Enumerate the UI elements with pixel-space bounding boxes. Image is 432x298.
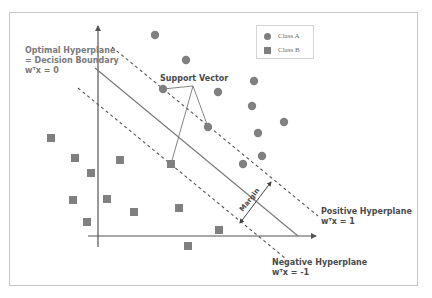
class-b-point (71, 154, 79, 162)
class-b-point (130, 208, 138, 216)
class-b-point (215, 226, 223, 234)
positive-hyperplane-label: Positive Hyperplane wᵀx = 1 (321, 207, 412, 227)
class-a-point (204, 123, 212, 131)
optimal-hyperplane-title: Optimal Hyperplane (25, 46, 119, 56)
class-b-point (116, 156, 124, 164)
class-a-point (250, 77, 258, 85)
class-a-point (214, 88, 222, 96)
class-b-point (184, 242, 192, 250)
negative-hyperplane-title: Negative Hyperplane (272, 258, 367, 268)
legend-item-class-b: Class B (264, 45, 300, 55)
svm-diagram (0, 0, 432, 298)
class-b-point (175, 204, 183, 212)
negative-hyperplane-equation: wᵀx = -1 (272, 268, 367, 278)
positive-hyperplane-equation: wᵀx = 1 (321, 217, 412, 227)
class-b-point (83, 218, 91, 226)
positive-hyperplane-line (112, 47, 318, 216)
optimal-hyperplane-label: Optimal Hyperplane = Decision Boundary w… (25, 46, 119, 76)
decision-boundary-equation: wᵀx = 0 (25, 66, 119, 76)
support-vector-callout (163, 86, 208, 164)
class-b-point (47, 134, 55, 142)
negative-hyperplane-line (78, 88, 285, 258)
class-b-point (69, 196, 77, 204)
decision-boundary-line (95, 68, 298, 236)
circle-icon (264, 33, 271, 40)
class-a-point (182, 56, 190, 64)
class-a-point (239, 160, 247, 168)
class-a-point (254, 129, 262, 137)
axes (88, 26, 316, 247)
legend: Class A Class B (256, 25, 314, 59)
positive-hyperplane-title: Positive Hyperplane (321, 207, 412, 217)
class-a-point (159, 85, 167, 93)
class-a-point (248, 102, 256, 110)
class-a-point (151, 31, 159, 39)
class-a-point (280, 118, 288, 126)
class-b-point (167, 160, 175, 168)
square-icon (264, 47, 271, 54)
legend-label: Class A (278, 32, 300, 40)
class-b-point (87, 169, 95, 177)
support-vector-label: Support Vector (160, 74, 228, 84)
legend-label: Class B (278, 46, 300, 54)
class-b-point (103, 195, 111, 203)
class-a-point (258, 152, 266, 160)
negative-hyperplane-label: Negative Hyperplane wᵀx = -1 (272, 258, 367, 278)
legend-item-class-a: Class A (264, 31, 300, 41)
decision-boundary-title: = Decision Boundary (25, 56, 119, 66)
